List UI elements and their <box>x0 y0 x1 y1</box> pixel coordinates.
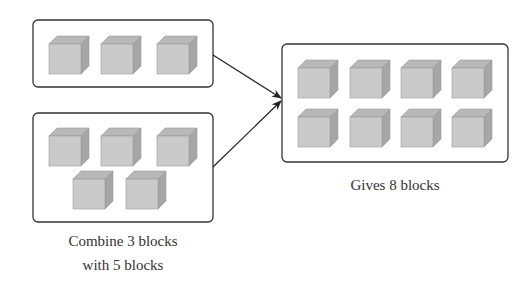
group-8-blocks <box>282 44 508 162</box>
block-icon <box>350 60 390 98</box>
combine-caption: Combine 3 blocks with 5 blocks <box>33 232 213 274</box>
block-icon <box>452 60 492 98</box>
block-icon <box>101 128 141 166</box>
block-icon <box>157 36 197 74</box>
arrow-from-3 <box>213 55 281 98</box>
block-icon <box>126 171 166 209</box>
block-icon <box>101 36 141 74</box>
block-icon <box>401 109 441 147</box>
combine-caption-line2: with 5 blocks <box>33 256 213 274</box>
block-icon <box>49 128 89 166</box>
block-icon <box>452 109 492 147</box>
result-caption: Gives 8 blocks <box>282 176 508 194</box>
block-icon <box>49 36 89 74</box>
group-5-blocks <box>33 113 213 222</box>
block-icon <box>73 171 113 209</box>
arrow-from-5 <box>213 101 281 167</box>
block-icon <box>350 109 390 147</box>
combine-caption-line1: Combine 3 blocks <box>33 232 213 250</box>
group-3-blocks <box>33 20 213 87</box>
block-icon <box>157 128 197 166</box>
block-icon <box>298 109 338 147</box>
block-icon <box>298 60 338 98</box>
block-icon <box>401 60 441 98</box>
